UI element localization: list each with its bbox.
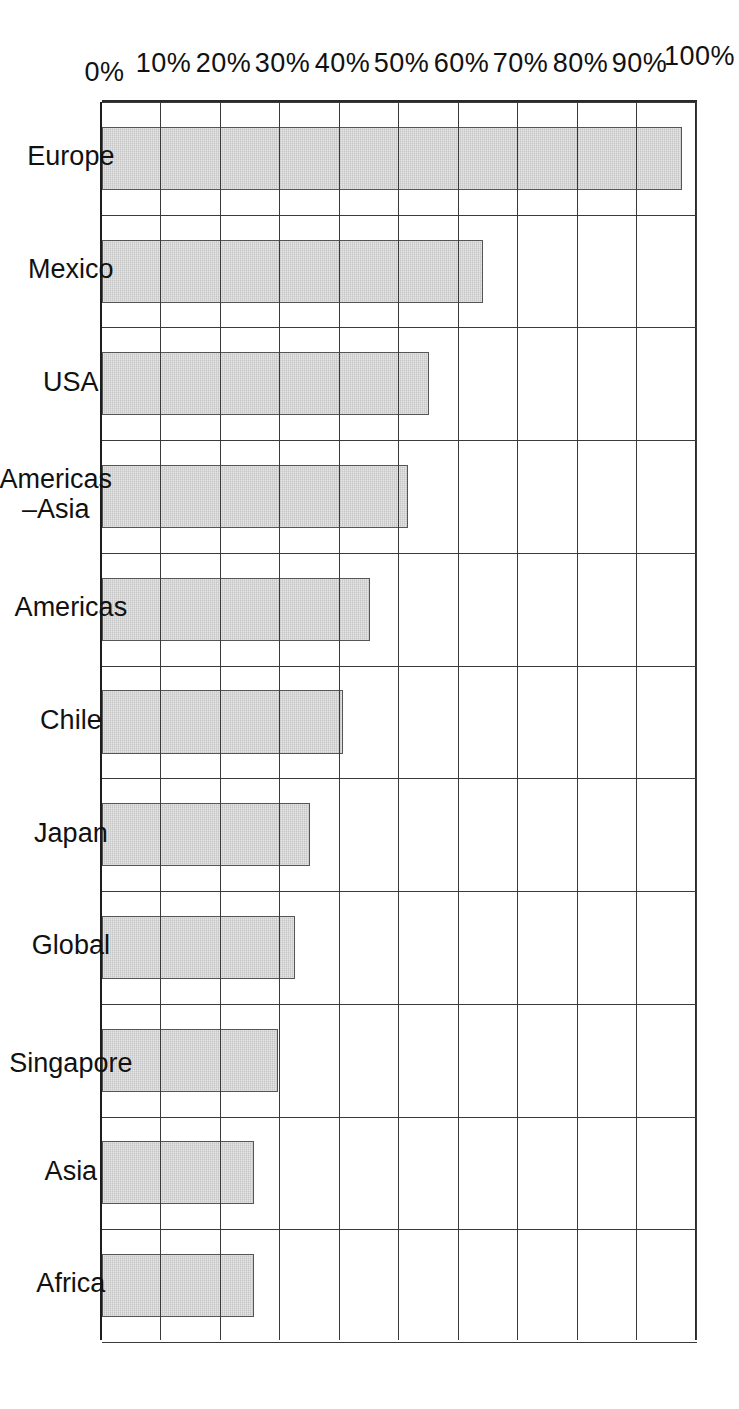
- value-tick-label-60: 60%: [446, 0, 477, 92]
- value-tick-label-50: 50%: [387, 0, 418, 92]
- bar-global: [102, 916, 295, 979]
- value-tick-text: 30%: [255, 49, 311, 80]
- value-tick-text: 40%: [315, 49, 371, 80]
- category-label-text: Americas: [15, 592, 128, 622]
- bar-usa: [102, 352, 429, 415]
- gridline-50: [399, 102, 400, 1340]
- category-label-global: Global: [56, 889, 86, 1002]
- category-label-text: Singapore: [9, 1048, 132, 1078]
- bar-americas: [102, 578, 370, 641]
- value-tick-text: 0%: [84, 56, 124, 87]
- category-label-africa: Africa: [56, 1227, 86, 1340]
- category-label-asia: Asia: [56, 1115, 86, 1228]
- category-label-text: Europe: [27, 141, 114, 171]
- value-tick-label-30: 30%: [268, 0, 299, 92]
- value-tick-label-40: 40%: [327, 0, 358, 92]
- category-label-mexico: Mexico: [56, 213, 86, 326]
- category-divider: [102, 215, 697, 216]
- category-label-text: USA: [43, 367, 99, 397]
- category-label-singapore: Singapore: [56, 1002, 86, 1115]
- category-divider: [102, 1229, 697, 1230]
- value-tick-text: 20%: [196, 49, 252, 80]
- gridline-20: [220, 102, 221, 1340]
- category-label-text: Chile: [40, 705, 102, 735]
- gridline-70: [518, 102, 519, 1340]
- category-label-text: Japan: [34, 818, 108, 848]
- category-divider: [102, 891, 697, 892]
- category-label-americas--asia: Americas –Asia: [26, 438, 86, 551]
- value-tick-text: 100%: [664, 41, 735, 72]
- value-tick-text: 10%: [136, 49, 192, 80]
- category-label-japan: Japan: [56, 776, 86, 889]
- value-tick-label-0: 0%: [89, 0, 120, 92]
- plot-area: [102, 100, 697, 1340]
- bar-americas--asia: [102, 465, 408, 528]
- bar-mexico: [102, 240, 483, 303]
- value-tick-text: 80%: [553, 49, 609, 80]
- category-divider: [102, 1004, 697, 1005]
- category-label-chile: Chile: [56, 664, 86, 777]
- bar-africa: [102, 1254, 254, 1317]
- bar-chart: 100%90%80%70%60%50%40%30%20%10%0% Europe…: [0, 0, 739, 1409]
- category-label-europe: Europe: [56, 100, 86, 213]
- value-tick-label-20: 20%: [208, 0, 239, 92]
- category-label-americas: Americas: [56, 551, 86, 664]
- gridline-90: [637, 102, 638, 1340]
- value-tick-label-10: 10%: [149, 0, 180, 92]
- value-tick-label-70: 70%: [506, 0, 537, 92]
- category-divider: [102, 553, 697, 554]
- value-tick-text: 90%: [612, 49, 668, 80]
- gridline-60: [458, 102, 459, 1340]
- category-divider: [102, 102, 697, 103]
- category-label-text: Americas –Asia: [0, 464, 112, 524]
- category-divider: [102, 666, 697, 667]
- value-tick-label-90: 90%: [625, 0, 656, 92]
- category-divider: [102, 1342, 697, 1343]
- gridline-100: [696, 102, 697, 1340]
- value-tick-text: 50%: [374, 49, 430, 80]
- category-label-usa: USA: [56, 325, 86, 438]
- bar-europe: [102, 127, 682, 190]
- category-label-text: Africa: [36, 1269, 105, 1299]
- category-label-text: Global: [32, 930, 110, 960]
- rotated-chart-stage: 100%90%80%70%60%50%40%30%20%10%0% Europe…: [0, 0, 739, 1409]
- bar-series: [102, 102, 697, 1340]
- gridline-10: [161, 102, 162, 1340]
- category-divider: [102, 1117, 697, 1118]
- category-label-text: Mexico: [28, 254, 114, 284]
- bar-asia: [102, 1141, 254, 1204]
- value-tick-text: 70%: [493, 49, 549, 80]
- bar-chile: [102, 690, 343, 753]
- category-divider: [102, 327, 697, 328]
- gridline-40: [339, 102, 340, 1340]
- gridline-30: [280, 102, 281, 1340]
- category-divider: [102, 440, 697, 441]
- category-divider: [102, 778, 697, 779]
- category-label-text: Asia: [45, 1156, 98, 1186]
- value-tick-text: 60%: [434, 49, 490, 80]
- gridline-80: [577, 102, 578, 1340]
- value-tick-label-100: 100%: [684, 0, 715, 92]
- value-tick-label-80: 80%: [565, 0, 596, 92]
